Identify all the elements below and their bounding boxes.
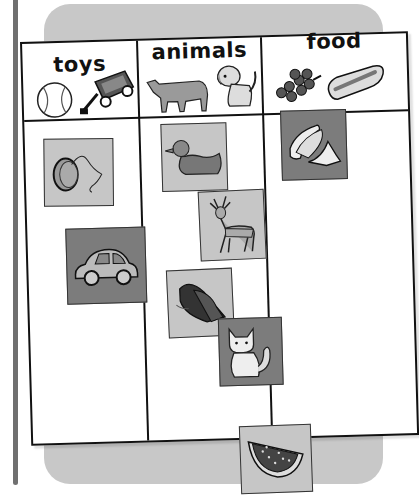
deer-icon <box>204 193 261 257</box>
cat-icon <box>223 322 279 381</box>
car-icon <box>71 243 142 289</box>
card-car[interactable] <box>65 227 147 305</box>
bananas-icon <box>285 121 342 169</box>
card-bananas[interactable] <box>280 109 348 181</box>
yo-yo-icon <box>47 144 110 201</box>
binder-spine <box>13 0 18 485</box>
card-cat[interactable] <box>218 317 284 387</box>
card-yo-yo[interactable] <box>43 138 114 207</box>
header-food: food <box>262 27 407 55</box>
cow-icon <box>145 73 212 115</box>
grapes-icon <box>273 68 324 103</box>
watermelon-icon <box>244 436 307 482</box>
hot-dog-icon <box>323 62 388 104</box>
baseball-icon <box>35 81 74 120</box>
card-duck[interactable] <box>160 122 228 192</box>
sorting-chart: toys animals food <box>20 31 419 446</box>
card-watermelon[interactable] <box>239 424 313 494</box>
duck-icon <box>165 135 224 179</box>
wagon-icon <box>79 67 136 119</box>
dog-icon <box>215 61 260 108</box>
header-animals: animals <box>138 37 261 64</box>
card-deer[interactable] <box>198 189 267 262</box>
